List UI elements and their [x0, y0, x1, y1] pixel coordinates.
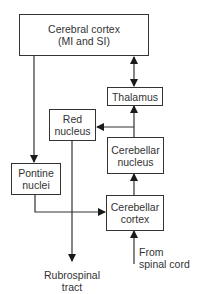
spinal-cord-input-label: From spinal cord [139, 246, 203, 270]
node-label-line: Cerebral cortex [48, 23, 120, 35]
node-label-line: Pontine [18, 167, 54, 179]
node-label-line: nuclei [22, 179, 49, 191]
node-label-line: Cerebellar [111, 201, 159, 213]
node-label-line: (MI and SI) [58, 35, 110, 47]
label-line: spinal cord [139, 258, 203, 270]
node-thalamus: Thalamus [107, 87, 163, 106]
label-line: From [139, 246, 203, 258]
node-cerebral-cortex: Cerebral cortex (MI and SI) [19, 14, 149, 56]
node-cerebellar-nucleus: Cerebellar nucleus [107, 137, 164, 174]
node-label-line: Cerebellar [111, 144, 159, 156]
label-line: tract [40, 281, 104, 293]
label-line: Rubrospinal [40, 269, 104, 281]
node-label-line: cortex [121, 213, 150, 225]
node-cerebellar-cortex: Cerebellar cortex [106, 195, 164, 231]
node-label-line: Thalamus [112, 91, 158, 103]
node-label-line: nucleus [54, 125, 90, 137]
node-pontine-nuclei: Pontine nuclei [11, 163, 61, 195]
node-label-line: nucleus [117, 156, 153, 168]
edge-pontine-cerebellar-cortex [35, 194, 105, 212]
node-red-nucleus: Red nucleus [49, 109, 96, 141]
node-label-line: Red [63, 113, 82, 125]
rubrospinal-tract-label: Rubrospinal tract [40, 269, 104, 293]
